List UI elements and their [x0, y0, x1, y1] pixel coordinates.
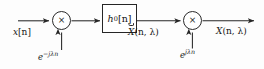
carrier-down-exponent: −jλn: [43, 50, 58, 57]
multiplier-node-down: ×: [52, 11, 71, 30]
input-signal-label: x[n]: [13, 27, 31, 37]
multiplier-node-up: ×: [183, 11, 202, 30]
input-index: [n]: [18, 27, 31, 37]
block-diagram: × × h0[n] x[n] X(n, λ) X(n, λ) e−jλn ejλ…: [0, 0, 264, 69]
intermediate-args: (n, λ): [134, 27, 158, 37]
filter-base: h: [108, 13, 114, 24]
carrier-up-exponent: jλn: [185, 48, 195, 55]
breve-accent-icon: [128, 23, 134, 26]
intermediate-signal-label: X(n, λ): [128, 27, 159, 37]
output-signal-label: X(n, λ): [216, 26, 247, 36]
intermediate-base: X: [128, 27, 134, 37]
carrier-down-label: e−jλn: [38, 52, 58, 62]
breve-accent-group: X: [128, 27, 134, 37]
carrier-up-label: ejλn: [180, 50, 195, 60]
output-args: (n, λ): [222, 26, 246, 36]
